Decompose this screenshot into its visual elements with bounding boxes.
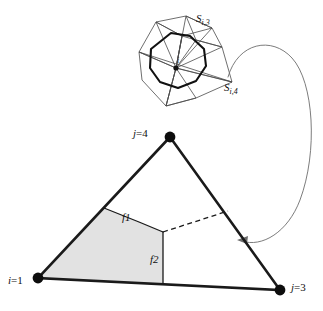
label-s-i4: Si,4 [224,82,238,96]
figure-canvas [0,0,323,311]
label-dual-center-i: i [177,57,179,65]
vertex-node-bottom-right [275,285,286,296]
vertex-node-bottom-left [33,273,44,284]
polyhedron-wireframe [139,16,232,106]
segment-dashed [163,211,228,232]
curved-arrow [228,45,311,244]
label-vertex-top: j=4 [133,128,148,139]
control-volume-shade [38,208,163,284]
dual-cell-center-node [173,65,178,70]
vertex-node-top [165,132,176,143]
label-vertex-bottom-right: j=3 [291,282,306,293]
label-s-i3: Si,3 [196,13,210,27]
label-vertex-bottom-left: i=1 [8,275,23,286]
label-face-f2: f2 [150,254,159,265]
label-face-f1: f1 [122,212,131,223]
triangle-element [33,132,286,296]
dual-cell-polyhedron [139,16,232,106]
